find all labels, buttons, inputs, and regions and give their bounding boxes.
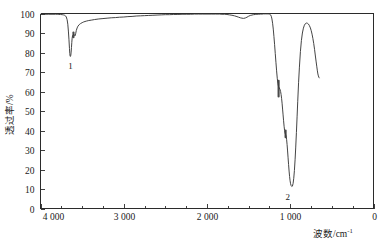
peak-label-2: 2	[286, 192, 291, 202]
y-tick-label-10: 10	[25, 185, 35, 195]
x-axis-title-main: 波数	[313, 228, 333, 239]
y-tick-label-60: 60	[25, 88, 35, 98]
y-tick-label-30: 30	[25, 146, 35, 156]
y-axis-title-group: 透过率/%	[4, 94, 15, 135]
x-tick-label-4000: 4 000	[43, 212, 65, 222]
figure-background	[0, 0, 387, 244]
x-axis-title-superscript: -1	[347, 227, 353, 234]
y-tick-label-40: 40	[25, 127, 35, 137]
y-tick-label-70: 70	[25, 68, 35, 78]
x-tick-label-0: 0	[372, 212, 377, 222]
x-tick-label-2000: 2 000	[197, 212, 219, 222]
x-tick-label-3000: 3 000	[114, 212, 136, 222]
chart-figure: 0102030405060708090100 4 0003 0002 0001 …	[0, 0, 387, 244]
y-tick-label-90: 90	[25, 29, 35, 39]
x-tick-label-1000: 1 000	[280, 212, 302, 222]
y-axis-title: 透过率/%	[4, 94, 15, 135]
y-tick-label-100: 100	[20, 10, 35, 20]
x-axis-title-group: 波数/cm-1	[313, 227, 353, 239]
x-axis-title-sep: /cm	[333, 229, 348, 239]
y-tick-label-20: 20	[25, 166, 35, 176]
x-axis-title: 波数/cm-1	[313, 227, 353, 239]
spectrum-svg: 0102030405060708090100 4 0003 0002 0001 …	[0, 0, 387, 244]
y-tick-label-80: 80	[25, 49, 35, 59]
peak-label-1: 1	[68, 61, 73, 71]
y-tick-label-0: 0	[30, 205, 35, 215]
y-tick-label-50: 50	[25, 107, 35, 117]
